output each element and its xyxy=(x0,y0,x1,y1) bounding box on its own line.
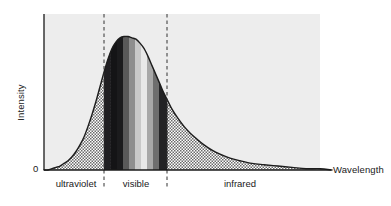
region-label-infrared: infrared xyxy=(190,178,290,189)
y-axis-title-text: Intensity xyxy=(15,84,26,120)
y-axis-title: Intensity xyxy=(13,62,27,142)
y-axis-zero-label: 0 xyxy=(33,163,38,174)
x-axis-title: Wavelength xyxy=(333,164,384,175)
region-label-visible: visible xyxy=(86,178,186,189)
spectral-intensity-figure: Intensity Wavelength 0 ultravioletvisibl… xyxy=(0,0,391,206)
plot-canvas xyxy=(0,0,391,206)
